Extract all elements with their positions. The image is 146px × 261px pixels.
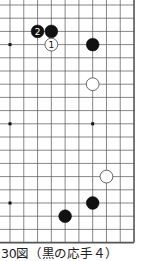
figure-caption: 30図（黒の応手４） xyxy=(1,246,118,261)
white-stone xyxy=(100,170,113,183)
white-stone: 1 xyxy=(45,38,58,51)
move-number: 2 xyxy=(35,27,41,37)
star-point xyxy=(9,122,12,125)
star-point xyxy=(9,43,12,46)
star-point xyxy=(91,122,94,125)
star-point xyxy=(9,202,12,205)
go-board: 21 xyxy=(0,0,146,246)
white-stone xyxy=(86,78,99,91)
black-stone xyxy=(45,25,58,38)
black-stone xyxy=(59,210,72,223)
black-stone xyxy=(86,197,99,210)
move-number: 1 xyxy=(48,40,54,50)
board-grid xyxy=(0,0,134,243)
black-stone: 2 xyxy=(31,25,44,38)
black-stone xyxy=(86,38,99,51)
